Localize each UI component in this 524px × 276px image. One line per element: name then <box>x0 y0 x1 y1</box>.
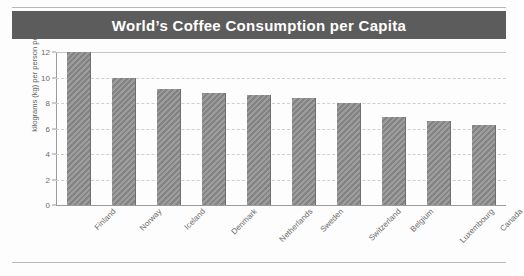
x-tick-label: Luxembourg <box>458 207 496 245</box>
chart-title: World’s Coffee Consumption per Capita <box>112 17 406 34</box>
y-tick-label: 12 <box>41 48 50 57</box>
bar <box>292 98 316 205</box>
x-tick-label: Belgium <box>408 207 435 234</box>
bar <box>337 103 361 205</box>
bar <box>67 52 91 205</box>
x-tick-label: Switzerland <box>367 207 403 243</box>
y-axis-title: kilograms (kg) per person per year <box>30 0 39 155</box>
y-tick-label: 6 <box>46 124 50 133</box>
x-axis-labels-group: FinlandNorwayIcelandDenmarkNetherlandsSw… <box>56 207 506 267</box>
bars-group <box>56 52 506 205</box>
chart-title-banner: World’s Coffee Consumption per Capita <box>12 11 506 39</box>
y-tick-label: 0 <box>46 201 50 210</box>
x-tick-label: Denmark <box>229 207 258 236</box>
bar <box>427 121 451 205</box>
y-tick-label: 4 <box>46 150 50 159</box>
bar <box>382 117 406 205</box>
plot-area: 024681012 <box>56 52 506 205</box>
x-tick-label: Netherlands <box>277 207 314 244</box>
y-tick-label: 8 <box>46 99 50 108</box>
bar <box>112 78 136 206</box>
bar <box>247 95 271 205</box>
bar <box>472 125 496 205</box>
bar <box>157 89 181 205</box>
x-tick-label: Iceland <box>182 207 207 232</box>
y-tick-label: 2 <box>46 175 50 184</box>
x-tick-label: Norway <box>137 207 163 233</box>
top-divider-rule <box>12 7 506 8</box>
bottom-divider-rule <box>12 262 506 263</box>
y-tick-label: 10 <box>41 73 50 82</box>
x-tick-label: Canada <box>498 207 524 233</box>
x-tick-label: Sweden <box>318 207 345 234</box>
bar <box>202 93 226 205</box>
x-tick-label: Finland <box>92 207 117 232</box>
